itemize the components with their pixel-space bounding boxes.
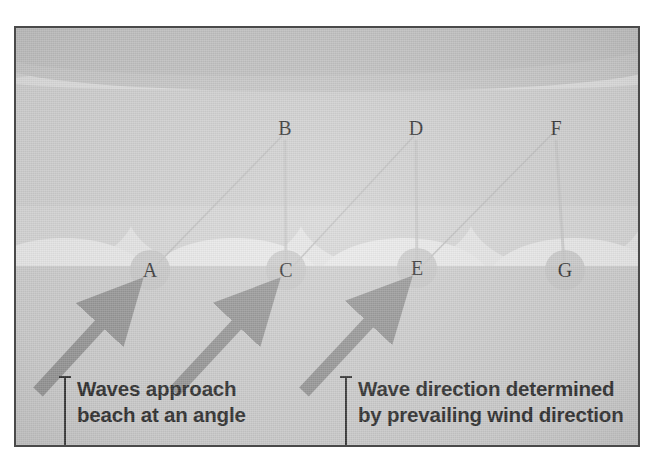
caption-left-text: Waves approach beach at an angle — [77, 376, 246, 428]
caption-right: Wave direction determined by prevailing … — [345, 376, 624, 447]
caption-left: Waves approach beach at an angle — [64, 376, 246, 447]
caption-right-text: Wave direction determined by prevailing … — [358, 376, 624, 428]
diagram-frame: A B C D E F G Waves approach beach at an… — [14, 26, 640, 447]
caption-left-tick — [64, 376, 66, 447]
caption-right-tick — [345, 376, 347, 447]
figure-canvas: A B C D E F G Waves approach beach at an… — [0, 0, 670, 463]
